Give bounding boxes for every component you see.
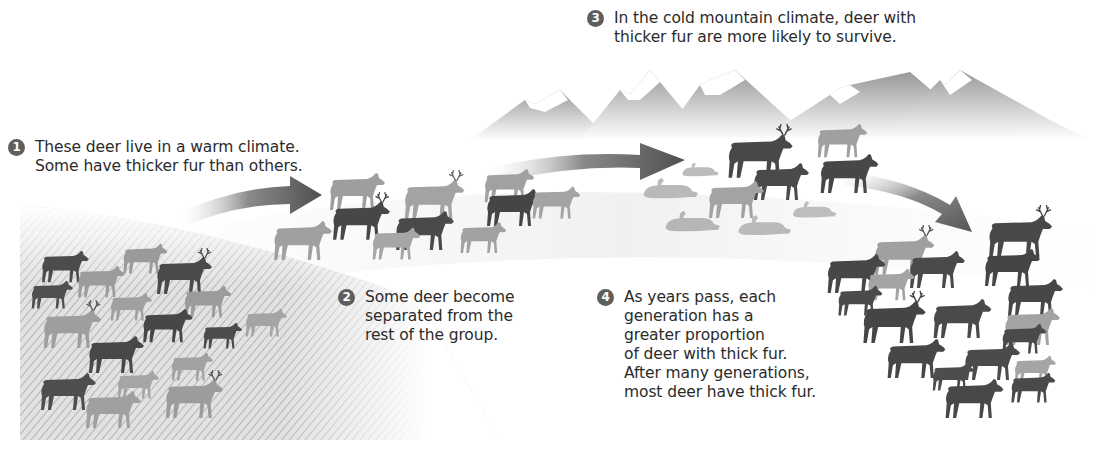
step-1-number-badge: 1 [8,139,25,156]
step-3-line-2: thicker fur are more likely to survive. [614,28,916,47]
step-1-caption: 1 These deer live in a warm climate. Som… [8,138,302,176]
step-3-line-1: In the cold mountain climate, deer with [614,9,916,28]
step-4-line-1: As years pass, each [624,288,816,307]
step-2-number-badge: 2 [338,289,355,306]
step-3-caption: 3 In the cold mountain climate, deer wit… [587,9,916,47]
step-4-line-4: of deer with thick fur. [624,345,816,364]
step-4-number-badge: 4 [597,289,614,306]
step-1-line-2: Some have thicker fur than others. [35,157,302,176]
step-1-line-1: These deer live in a warm climate. [35,138,302,157]
step-4-line-5: After many generations, [624,364,816,383]
step-4-line-2: generation has a [624,307,816,326]
step-2-line-2: separated from the [365,307,515,326]
step-2-caption: 2 Some deer become separated from the re… [338,288,515,345]
natural-selection-diagram [0,0,1097,455]
step-4-caption: 4 As years pass, each generation has a g… [597,288,816,402]
step-2-line-3: rest of the group. [365,326,515,345]
step-3-number-badge: 3 [587,10,604,27]
step-4-line-3: greater proportion [624,326,816,345]
step-2-line-1: Some deer become [365,288,515,307]
step-4-line-6: most deer have thick fur. [624,383,816,402]
